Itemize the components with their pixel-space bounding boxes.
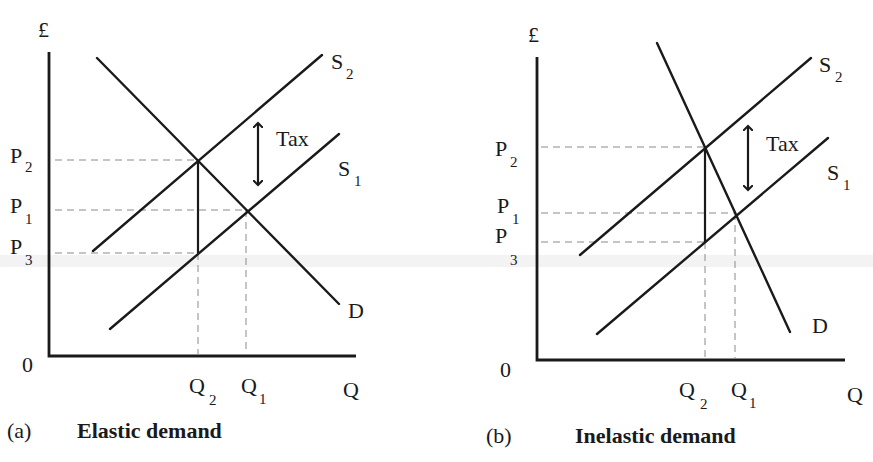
panel-elastic: £ 0 Q Tax S 2 S 1 D P 2 P 1 P 3 Q 2 Q 1 <box>7 17 364 443</box>
s2-label: S <box>331 49 343 74</box>
p1-sub: 1 <box>512 211 520 227</box>
q2-sub: 2 <box>209 392 217 408</box>
x-axis-label: Q <box>343 377 359 402</box>
origin-label: 0 <box>500 357 511 382</box>
q2-label: Q <box>189 373 205 398</box>
s2-label: S <box>819 52 831 77</box>
caption-letter: (a) <box>7 418 31 443</box>
s2-sub: 2 <box>346 66 354 82</box>
d-label: D <box>348 298 364 323</box>
p2-sub: 2 <box>25 159 33 175</box>
s1-sub: 1 <box>354 173 362 189</box>
s2-sub: 2 <box>835 69 843 85</box>
tax-incidence-diagram: £ 0 Q Tax S 2 S 1 D P 2 P 1 P 3 Q 2 Q 1 <box>0 0 873 462</box>
tax-label: Tax <box>766 131 799 156</box>
axes <box>537 57 845 360</box>
q2-label: Q <box>679 377 695 402</box>
demand-curve <box>97 58 339 304</box>
axes <box>49 52 356 356</box>
caption-title: Inelastic demand <box>575 423 736 448</box>
s1-label: S <box>827 160 839 185</box>
tax-label: Tax <box>276 126 309 151</box>
x-axis-label: Q <box>847 382 863 407</box>
caption-title: Elastic demand <box>77 418 222 443</box>
p3-sub: 3 <box>25 252 33 268</box>
supply-curve-s2 <box>580 58 811 255</box>
p1-label: P <box>497 193 509 218</box>
supply-curve-s2 <box>93 55 322 251</box>
p2-label: P <box>10 143 22 168</box>
q1-sub: 1 <box>259 391 267 407</box>
s1-label: S <box>338 156 350 181</box>
p3-sub: 3 <box>510 252 518 268</box>
p2-sub: 2 <box>510 154 518 170</box>
q2-sub: 2 <box>700 396 708 412</box>
p1-sub: 1 <box>25 211 33 227</box>
p3-label: P <box>495 223 507 248</box>
panel-inelastic: £ 0 Q Tax S 2 S 1 D P 2 P 1 P 3 Q 2 Q 1 … <box>486 22 863 448</box>
q1-label: Q <box>241 373 257 398</box>
origin-label: 0 <box>22 352 33 377</box>
y-axis-label: £ <box>38 17 49 42</box>
p2-label: P <box>495 136 507 161</box>
p1-label: P <box>10 193 22 218</box>
scan-artifact <box>0 255 873 267</box>
p3-label: P <box>10 234 22 259</box>
q1-label: Q <box>731 377 747 402</box>
caption-letter: (b) <box>486 423 512 448</box>
supply-curve-s1 <box>597 138 828 334</box>
supply-curve-s1 <box>110 134 339 329</box>
s1-sub: 1 <box>843 177 851 193</box>
q1-sub: 1 <box>749 395 757 411</box>
y-axis-label: £ <box>528 22 539 47</box>
d-label: D <box>812 313 828 338</box>
